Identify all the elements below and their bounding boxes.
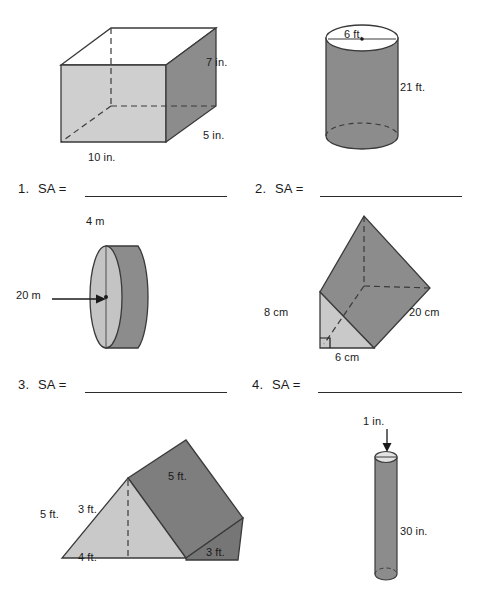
label-thin-cylinder-diameter: 1 in. <box>363 415 384 427</box>
label-lying-prism-depth: 3 ft. <box>206 546 225 558</box>
worksheet-page: 7 in. 5 in. 10 in. 6 ft. 21 ft. 1. SA = … <box>0 0 482 592</box>
label-cylinder-height: 21 ft. <box>400 81 425 93</box>
disc-diameter-arrow <box>52 292 108 306</box>
label-tri-prism-leg: 8 cm <box>264 306 288 318</box>
problem-3-prompt: SA = <box>38 377 67 392</box>
thin-cylinder-body <box>375 457 397 580</box>
problem-4-answer-line[interactable] <box>318 392 462 393</box>
cylinder-body <box>326 38 398 149</box>
label-prism-depth: 5 in. <box>203 129 224 141</box>
problem-1-answer-line[interactable] <box>85 196 227 197</box>
label-thin-cylinder-height: 30 in. <box>400 525 428 537</box>
label-prism-length: 10 in. <box>88 151 116 163</box>
problem-1-prompt: SA = <box>38 181 67 196</box>
label-lying-prism-base: 4 ft. <box>78 551 97 563</box>
label-lying-prism-height: 3 ft. <box>78 503 97 515</box>
thin-cylinder-diameter-arrow <box>380 429 394 453</box>
label-prism-height: 7 in. <box>206 56 227 68</box>
problem-2-prompt: SA = <box>275 181 304 196</box>
problem-2-answer-line[interactable] <box>320 196 462 197</box>
label-tri-prism-base: 6 cm <box>335 351 359 363</box>
figure-rectangular-prism <box>56 20 226 165</box>
label-disc-diameter: 20 m <box>16 289 41 301</box>
problem-4-prompt: SA = <box>272 377 301 392</box>
problem-3-number: 3. <box>18 377 29 392</box>
label-tri-prism-length: 20 cm <box>409 306 439 318</box>
problem-2-number: 2. <box>255 181 266 196</box>
label-lying-prism-slant-right: 5 ft. <box>168 470 187 482</box>
figure-cylinder-thin <box>369 445 413 590</box>
problem-1-number: 1. <box>18 181 29 196</box>
problem-4-number: 4. <box>252 377 263 392</box>
problem-3-answer-line[interactable] <box>85 392 227 393</box>
label-lying-prism-slant-left: 5 ft. <box>40 508 59 520</box>
label-cylinder-diameter: 6 ft. <box>344 28 363 40</box>
label-disc-height: 4 m <box>86 215 105 227</box>
figure-triangular-prism-upright <box>312 208 442 363</box>
figure-cylinder-vertical <box>318 24 413 159</box>
